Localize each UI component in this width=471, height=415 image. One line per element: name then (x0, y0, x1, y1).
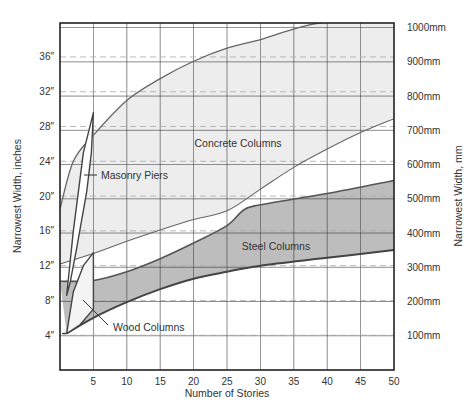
label-masonry-piers: Masonry Piers (101, 169, 168, 181)
x-tick-label: 25 (221, 376, 233, 387)
y-tick-label-mm: 100mm (407, 330, 440, 341)
y-tick-label-mm: 300mm (407, 262, 440, 273)
y-tick-label-inches: 16″ (39, 225, 54, 236)
x-tick-label: 15 (155, 376, 167, 387)
y-axis-right-title: Narrowest Width, mm (452, 145, 464, 246)
y-tick-label-mm: 500mm (407, 193, 440, 204)
label-steel-columns: Steel Columns (242, 240, 310, 252)
y-tick-label-mm: 800mm (407, 91, 440, 102)
y-tick-label-inches: 12″ (39, 260, 54, 271)
x-tick-label: 50 (388, 376, 400, 387)
label-wood-columns: Wood Columns (113, 321, 185, 333)
x-tick-label: 10 (121, 376, 133, 387)
y-tick-label-inches: 24″ (39, 156, 54, 167)
x-tick-label: 45 (355, 376, 367, 387)
y-tick-label-mm: 600mm (407, 159, 440, 170)
y-tick-label-inches: 8″ (45, 295, 55, 306)
y-tick-label-mm: 700mm (407, 125, 440, 136)
y-tick-label-inches: 4″ (45, 330, 55, 341)
y-tick-label-mm: 200mm (407, 296, 440, 307)
y-axis-left-ticks: 4″8″12″16″20″24″28″32″36″ (39, 51, 54, 340)
x-tick-label: 40 (322, 376, 334, 387)
x-tick-label: 35 (288, 376, 300, 387)
y-tick-label-mm: 1000mm (407, 22, 446, 33)
y-tick-label-inches: 28″ (39, 121, 54, 132)
x-tick-label: 20 (188, 376, 200, 387)
y-axis-right-ticks: 100mm200mm300mm400mm500mm600mm700mm800mm… (407, 22, 446, 341)
y-tick-label-inches: 32″ (39, 86, 54, 97)
column-size-chart: 5101520253035404550 4″8″12″16″20″24″28″3… (0, 0, 471, 415)
y-tick-label-inches: 36″ (39, 51, 54, 62)
y-tick-label-inches: 20″ (39, 191, 54, 202)
label-concrete-columns: Concrete Columns (195, 137, 282, 149)
y-tick-label-mm: 400mm (407, 228, 440, 239)
x-axis-ticks: 5101520253035404550 (91, 376, 400, 387)
y-axis-left-title: Narrowest Width, inches (11, 139, 23, 253)
x-axis-title: Number of Stories (185, 387, 270, 399)
y-tick-label-mm: 900mm (407, 56, 440, 67)
x-tick-label: 30 (255, 376, 267, 387)
x-tick-label: 5 (91, 376, 97, 387)
